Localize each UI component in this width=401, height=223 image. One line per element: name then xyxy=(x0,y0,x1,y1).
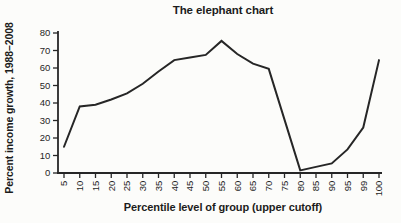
x-tick-label: 100 xyxy=(373,181,384,196)
y-tick-label: 0 xyxy=(45,167,50,178)
y-tick-label: 60 xyxy=(40,62,50,73)
y-tick-label: 80 xyxy=(40,27,50,38)
x-axis-label: Percentile level of group (upper cutoff) xyxy=(58,201,388,213)
x-tick-label: 50 xyxy=(200,181,211,191)
x-tick-label: 35 xyxy=(153,181,164,191)
x-tick-label: 60 xyxy=(232,181,243,191)
chart-frame: The elephant chart Percent income growth… xyxy=(0,0,401,223)
x-tick-label: 99 xyxy=(358,181,369,191)
x-tick-label: 85 xyxy=(310,181,321,191)
x-tick-label: 55 xyxy=(216,181,227,191)
y-tick-label: 30 xyxy=(40,115,50,126)
x-tick-label: 25 xyxy=(121,181,132,191)
x-tick-label: 90 xyxy=(326,181,337,191)
x-tick-label: 70 xyxy=(263,181,274,191)
x-tick-label: 15 xyxy=(90,181,101,191)
x-tick-label: 80 xyxy=(295,181,306,191)
y-tick-label: 40 xyxy=(40,97,50,108)
y-tick-label: 20 xyxy=(40,132,50,143)
x-tick-label: 65 xyxy=(247,181,258,191)
x-tick-label: 5 xyxy=(58,181,69,186)
x-tick-label: 10 xyxy=(74,181,85,191)
x-tick-label: 40 xyxy=(169,181,180,191)
y-tick-label: 70 xyxy=(40,45,50,56)
x-tick-label: 45 xyxy=(184,181,195,191)
x-tick-label: 95 xyxy=(342,181,353,191)
y-tick-label: 10 xyxy=(40,150,50,161)
x-tick-label: 75 xyxy=(279,181,290,191)
y-tick-label: 50 xyxy=(40,80,50,91)
plot-area: 0102030405060708051015202530354045505560… xyxy=(0,0,401,223)
x-tick-label: 20 xyxy=(106,181,117,191)
x-tick-label: 30 xyxy=(137,181,148,191)
data-line xyxy=(64,41,379,171)
